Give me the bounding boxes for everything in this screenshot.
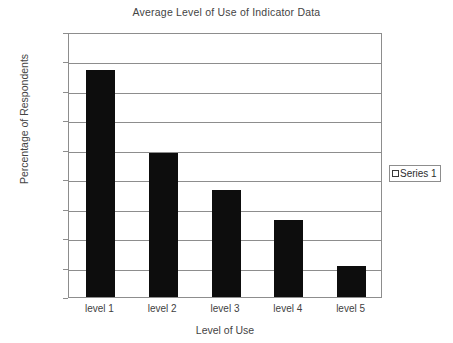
gridline: [69, 181, 381, 182]
bar[interactable]: [212, 190, 241, 297]
y-axis-tick-mark: [63, 239, 68, 240]
plot-area: [68, 33, 382, 298]
chart-title: Average Level of Use of Indicator Data: [0, 6, 453, 18]
x-axis-title: Level of Use: [68, 324, 382, 336]
chart-legend[interactable]: Series 1: [389, 165, 441, 182]
legend-label: Series 1: [400, 168, 437, 179]
bar[interactable]: [274, 220, 303, 297]
y-axis-tick-mark: [63, 151, 68, 152]
chart-container: Average Level of Use of Indicator Data P…: [0, 0, 453, 343]
y-axis-tick-mark: [63, 121, 68, 122]
y-axis-tick-mark: [63, 62, 68, 63]
y-axis-tick-mark: [63, 33, 68, 34]
bar[interactable]: [337, 266, 366, 297]
y-axis-tick-mark: [63, 92, 68, 93]
x-axis-tick-label: level 3: [190, 303, 260, 314]
x-axis-tick-label: level 1: [64, 303, 134, 314]
y-axis-tick-mark: [63, 210, 68, 211]
y-axis-title: Percentage of Respondents: [18, 19, 30, 219]
gridline: [69, 63, 381, 64]
legend-swatch-icon: [392, 170, 399, 177]
y-axis-tick-mark: [63, 269, 68, 270]
x-axis-tick-label: level 5: [316, 303, 386, 314]
bar[interactable]: [149, 153, 178, 297]
y-axis-tick-mark: [63, 180, 68, 181]
gridline: [69, 93, 381, 94]
x-axis-tick-label: level 2: [127, 303, 197, 314]
gridline: [69, 122, 381, 123]
gridline: [69, 152, 381, 153]
bar[interactable]: [86, 70, 115, 297]
y-axis-tick-mark: [63, 298, 68, 299]
x-axis-tick-label: level 4: [253, 303, 323, 314]
